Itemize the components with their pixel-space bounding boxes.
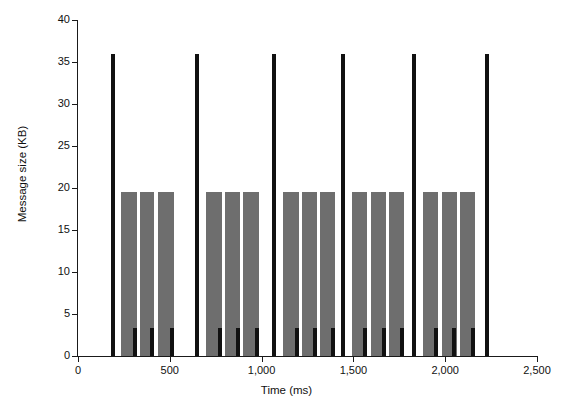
- y-axis-label: Message size (KB): [16, 104, 28, 244]
- y-tick-label: 5: [26, 308, 70, 319]
- bar: [313, 328, 317, 356]
- y-tick-label: 30: [26, 98, 70, 109]
- y-tick-mark: [72, 230, 77, 231]
- bar: [218, 328, 222, 356]
- x-tick-mark: [78, 357, 79, 362]
- chart-container: 0510152025303540 05001,0001,5002,0002,50…: [0, 0, 573, 418]
- bar: [485, 54, 489, 356]
- y-tick-mark: [72, 20, 77, 21]
- y-axis-line: [77, 20, 78, 357]
- y-tick-mark: [72, 104, 77, 105]
- y-tick-label: 40: [26, 14, 70, 25]
- bar: [255, 328, 259, 356]
- y-tick-label: 15: [26, 224, 70, 235]
- bar: [471, 328, 475, 356]
- bar: [295, 328, 299, 356]
- bar: [331, 328, 335, 356]
- bar: [272, 54, 276, 356]
- bar: [434, 328, 438, 356]
- y-tick-label: 10: [26, 266, 70, 277]
- bar: [170, 328, 174, 356]
- x-tick-mark: [353, 357, 354, 362]
- y-tick-mark: [72, 314, 77, 315]
- x-axis-label: Time (ms): [0, 384, 573, 396]
- bar: [412, 54, 416, 356]
- x-tick-mark: [537, 357, 538, 362]
- bar: [452, 328, 456, 356]
- bar: [341, 54, 345, 356]
- y-tick-mark: [72, 272, 77, 273]
- y-axis-ticks: 0510152025303540: [66, 0, 77, 418]
- y-tick-label: 25: [26, 140, 70, 151]
- bar: [133, 328, 137, 356]
- x-axis-ticks: 05001,0001,5002,0002,500: [0, 357, 573, 377]
- bar: [150, 328, 154, 356]
- x-tick-label: 1,000: [232, 365, 292, 376]
- y-tick-label: 20: [26, 182, 70, 193]
- bar: [111, 54, 115, 356]
- y-tick-label: 35: [26, 56, 70, 67]
- bar: [400, 328, 404, 356]
- x-tick-label: 0: [48, 365, 108, 376]
- plot-area: [78, 20, 537, 356]
- x-tick-label: 2,000: [415, 365, 475, 376]
- x-tick-label: 500: [140, 365, 200, 376]
- x-tick-label: 2,500: [507, 365, 567, 376]
- y-tick-mark: [72, 146, 77, 147]
- y-tick-mark: [72, 62, 77, 63]
- x-tick-mark: [262, 357, 263, 362]
- bar: [195, 54, 199, 356]
- bar: [382, 328, 386, 356]
- bar: [363, 328, 367, 356]
- x-tick-label: 1,500: [323, 365, 383, 376]
- bar: [236, 328, 240, 356]
- x-tick-mark: [445, 357, 446, 362]
- y-tick-mark: [72, 188, 77, 189]
- x-tick-mark: [170, 357, 171, 362]
